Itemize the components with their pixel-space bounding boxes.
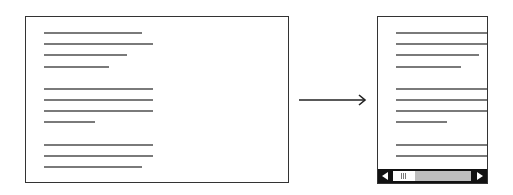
text-line (44, 88, 153, 90)
triangle-right-icon (473, 169, 487, 183)
scroll-right-button[interactable] (473, 169, 487, 183)
grip-line (405, 173, 406, 179)
grip-line (401, 173, 402, 179)
grip-line (403, 173, 404, 179)
text-line (396, 99, 488, 101)
text-line (396, 88, 488, 90)
text-line (396, 32, 488, 34)
horizontal-scrollbar[interactable] (378, 169, 487, 183)
scrollbar-thumb[interactable] (393, 171, 415, 181)
mobile-page-frame (377, 16, 488, 184)
text-line (44, 43, 153, 45)
text-line (396, 110, 488, 112)
text-line (44, 144, 153, 146)
text-line (44, 166, 142, 168)
text-line (44, 32, 142, 34)
text-line (44, 66, 109, 68)
triangle-left-icon (378, 169, 392, 183)
text-line (44, 110, 153, 112)
scroll-left-button[interactable] (378, 169, 392, 183)
text-line (396, 43, 488, 45)
text-line (44, 121, 95, 123)
text-line (396, 144, 488, 146)
text-line (396, 121, 447, 123)
text-line (44, 54, 127, 56)
desktop-page-frame (25, 16, 289, 183)
text-line (396, 54, 479, 56)
text-line (396, 155, 488, 157)
text-line (44, 99, 153, 101)
scrollbar-track[interactable] (415, 171, 471, 181)
text-line (396, 66, 461, 68)
text-line (44, 155, 153, 157)
arrow-right-icon (297, 93, 369, 107)
